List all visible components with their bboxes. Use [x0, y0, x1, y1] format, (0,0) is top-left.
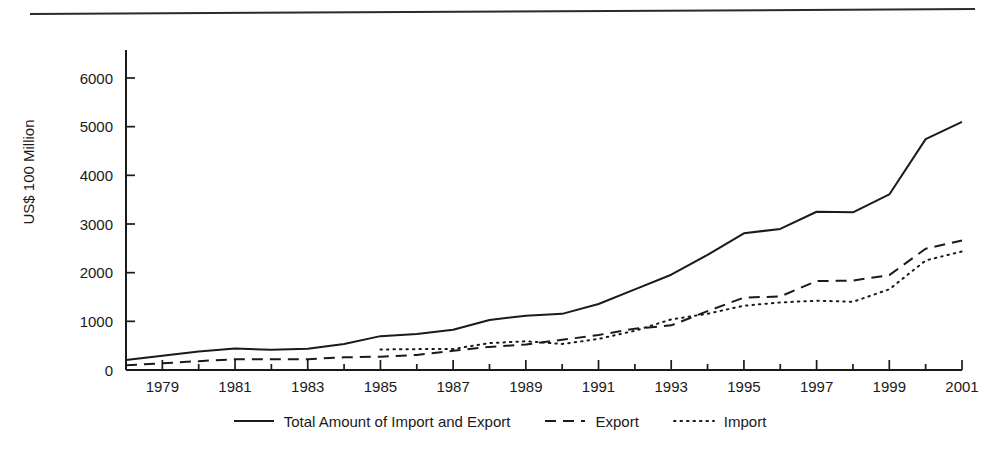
- y-tick-label: 2000: [80, 264, 113, 281]
- plot-area: 0100020003000400050006000 19791981198319…: [0, 0, 999, 400]
- x-tick-label: 1985: [364, 378, 397, 395]
- y-axis-title: US$ 100 Million: [20, 119, 37, 224]
- series-line-dotted: [380, 251, 962, 349]
- legend-item: Import: [673, 413, 767, 430]
- line-chart-svg: 0100020003000400050006000 19791981198319…: [0, 0, 999, 400]
- legend-swatch-solid: [233, 414, 275, 428]
- x-axis: 1979198119831985198719891991199319951997…: [126, 360, 979, 395]
- legend-label: Export: [595, 413, 638, 430]
- legend-label: Total Amount of Import and Export: [284, 413, 511, 430]
- chart-legend: Total Amount of Import and ExportExportI…: [0, 404, 999, 438]
- y-tick-label: 4000: [80, 167, 113, 184]
- legend-item: Total Amount of Import and Export: [233, 413, 511, 430]
- series-line-dashed: [126, 241, 962, 366]
- y-tick-label: 0: [105, 362, 113, 379]
- y-tick-label: 5000: [80, 118, 113, 135]
- series-lines: [126, 122, 962, 365]
- x-tick-label: 1995: [727, 378, 760, 395]
- x-tick-label: 1987: [436, 378, 469, 395]
- x-tick-label: 1979: [146, 378, 179, 395]
- legend-swatch-dotted: [673, 414, 715, 428]
- x-tick-label: 1989: [509, 378, 542, 395]
- legend-swatch-dashed: [544, 414, 586, 428]
- legend-item: Export: [544, 413, 638, 430]
- y-tick-label: 6000: [80, 70, 113, 87]
- y-tick-label: 1000: [80, 313, 113, 330]
- x-tick-label: 1993: [655, 378, 688, 395]
- y-axis: 0100020003000400050006000: [80, 50, 135, 379]
- series-line-solid: [126, 122, 962, 360]
- y-axis-title-text: US$ 100 Million: [20, 119, 37, 224]
- x-tick-label: 1981: [218, 378, 251, 395]
- x-tick-label: 1991: [582, 378, 615, 395]
- x-tick-label: 1999: [873, 378, 906, 395]
- y-tick-label: 3000: [80, 216, 113, 233]
- chart-figure: 0100020003000400050006000 19791981198319…: [0, 0, 999, 456]
- x-tick-label: 1983: [291, 378, 324, 395]
- legend-label: Import: [724, 413, 767, 430]
- x-tick-label: 2001: [945, 378, 978, 395]
- x-tick-label: 1997: [800, 378, 833, 395]
